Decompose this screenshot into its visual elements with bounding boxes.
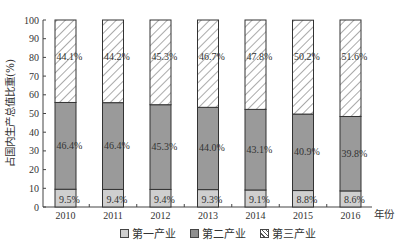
bar-value-label: 9.4%	[107, 194, 128, 205]
legend-label: 第一产业	[132, 225, 176, 241]
light-gray-square-icon	[120, 229, 129, 238]
bar-value-label: 9.4%	[154, 194, 175, 205]
y-tick-label: 60	[29, 89, 39, 100]
bar-segment	[340, 20, 361, 116]
bar-segment	[150, 20, 171, 105]
bar-value-label: 44.2%	[104, 51, 130, 62]
bar-value-label: 9.5%	[59, 194, 80, 205]
legend-item-secondary: 第二产业	[190, 225, 246, 241]
y-tick-label: 100	[24, 15, 39, 26]
y-tick-label: 70	[29, 71, 39, 82]
x-tick-label: 2016	[341, 210, 361, 221]
legend: 第一产业 第二产业 第三产业	[120, 225, 316, 241]
bar-value-label: 47.8%	[247, 51, 273, 62]
legend-label: 第三产业	[272, 225, 316, 241]
x-tick-label: 2013	[198, 210, 218, 221]
bar-value-label: 51.6%	[342, 51, 368, 62]
bar-stack-2013: 9.3%44.0%46.7%	[198, 20, 225, 207]
bar-value-label: 46.4%	[57, 140, 83, 151]
x-axis-title: 年份	[374, 208, 395, 220]
y-tick-label: 30	[29, 145, 39, 156]
bar-value-label: 46.4%	[104, 140, 130, 151]
x-tick-label: 2012	[151, 210, 171, 221]
y-tick-label: 0	[34, 202, 39, 213]
y-axis: 0102030405060708090100	[24, 15, 46, 213]
bar-value-label: 45.3%	[152, 141, 178, 152]
bar-value-label: 9.1%	[249, 194, 270, 205]
bar-value-label: 45.3%	[152, 51, 178, 62]
bar-value-label: 40.9%	[294, 146, 320, 157]
x-tick-label: 2010	[56, 210, 76, 221]
bar-stack-2012: 9.4%45.3%45.3%	[150, 20, 177, 207]
x-tick-label: 2011	[103, 210, 123, 221]
y-tick-label: 90	[29, 33, 39, 44]
bar-value-label: 39.8%	[342, 148, 368, 159]
legend-item-primary: 第一产业	[120, 225, 176, 241]
bar-value-label: 43.1%	[247, 144, 273, 155]
bar-stack-2016: 8.6%39.8%51.6%	[340, 20, 367, 207]
y-tick-label: 80	[29, 52, 39, 63]
bar-segment	[198, 20, 219, 107]
x-tick-label: 2015	[293, 210, 313, 221]
y-tick-label: 40	[29, 127, 39, 138]
bar-value-label: 46.7%	[199, 51, 225, 62]
bar-value-label: 9.3%	[202, 194, 223, 205]
bars: 9.5%46.4%44.1%9.4%46.4%44.2%9.4%45.3%45.…	[55, 20, 367, 207]
bar-stack-2015: 8.8%40.9%50.2%	[293, 20, 320, 207]
y-axis-title: 占国内生产总值比重(%)	[4, 59, 16, 167]
legend-item-tertiary: 第三产业	[260, 225, 316, 241]
stacked-bar-chart: 0102030405060708090100 20102011201220132…	[0, 0, 407, 248]
x-tick-label: 2014	[246, 210, 266, 221]
y-tick-label: 50	[29, 108, 39, 119]
bar-stack-2014: 9.1%43.1%47.8%	[245, 20, 272, 207]
bar-value-label: 44.1%	[57, 51, 83, 62]
bar-segment	[293, 20, 314, 114]
y-tick-label: 20	[29, 164, 39, 175]
hatched-square-icon	[260, 229, 269, 238]
bar-value-label: 8.8%	[297, 194, 318, 205]
y-tick-label: 10	[29, 183, 39, 194]
bar-stack-2011: 9.4%46.4%44.2%	[103, 20, 130, 207]
bar-stack-2010: 9.5%46.4%44.1%	[55, 20, 82, 207]
bar-value-label: 8.6%	[344, 194, 365, 205]
bar-value-label: 44.0%	[199, 142, 225, 153]
legend-label: 第二产业	[202, 225, 246, 241]
dark-gray-square-icon	[190, 229, 199, 238]
bar-segment	[245, 20, 266, 109]
bar-value-label: 50.2%	[294, 51, 320, 62]
